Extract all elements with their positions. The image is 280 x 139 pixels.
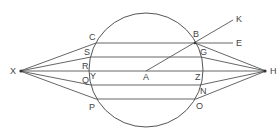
label-y: Y [90, 71, 96, 81]
label-s: S [84, 47, 90, 57]
label-c: C [89, 32, 96, 42]
label-z: Z [195, 72, 201, 82]
ray-x-s [20, 57, 91, 71]
label-p: P [89, 102, 95, 112]
label-h: H [270, 66, 277, 76]
point-h [263, 69, 266, 72]
label-n: N [200, 86, 207, 96]
label-o: O [196, 101, 203, 111]
ray-n-h [200, 71, 266, 85]
point-x [19, 69, 22, 72]
normal-line-a-k [146, 20, 233, 71]
label-r: R [82, 61, 89, 71]
ray-o-h [196, 71, 266, 99]
geometry-diagram: X H A B C S R Q Y P Z G N O K E [0, 0, 280, 139]
label-q: Q [82, 75, 89, 85]
ray-x-q [20, 71, 91, 85]
label-b: B [193, 29, 199, 39]
label-k: K [236, 14, 242, 24]
sphere-circle [89, 13, 203, 127]
label-a: A [143, 72, 149, 82]
label-g: G [200, 47, 207, 57]
ray-g-h [201, 57, 266, 71]
point-b [194, 42, 196, 44]
label-x: X [10, 66, 16, 76]
label-e: E [236, 38, 242, 48]
